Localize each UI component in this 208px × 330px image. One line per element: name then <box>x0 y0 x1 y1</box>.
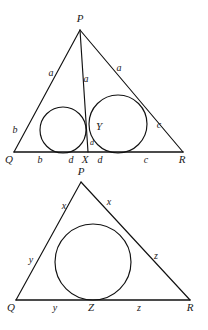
upper-vertex-label-P: P <box>76 12 84 24</box>
lower-segment-label-x-left: x <box>61 200 67 211</box>
upper-segment-label-a-middle: a <box>84 73 89 84</box>
upper-base-label-c: c <box>144 154 149 165</box>
upper-panel: P Q R X Y a a a b c b d d c d <box>5 12 186 165</box>
lower-segment-label-y-side: y <box>28 254 34 265</box>
lower-vertex-label-P: P <box>77 165 85 177</box>
upper-vertex-label-Q: Q <box>5 153 13 165</box>
upper-segment-label-b-side: b <box>13 124 18 135</box>
lower-vertex-label-Q: Q <box>7 301 15 313</box>
lower-incircle <box>55 224 131 300</box>
lower-base-label-z: z <box>136 302 141 313</box>
lower-side-PQ <box>16 182 81 300</box>
upper-cevian-PX <box>80 30 88 152</box>
upper-base-label-d-left: d <box>69 154 75 165</box>
upper-segment-label-c-side: c <box>157 119 162 130</box>
lower-base-label-y: y <box>52 302 58 313</box>
lower-vertex-label-R: R <box>186 301 194 313</box>
lower-segment-label-x-right: x <box>106 196 112 207</box>
lower-side-PR <box>81 182 190 300</box>
upper-left-incircle <box>40 107 86 153</box>
lower-point-label-Z: Z <box>88 301 95 313</box>
upper-segment-label-a-right: a <box>117 62 122 73</box>
lower-panel: P Q R Z x x y z y z <box>7 165 194 313</box>
upper-point-label-Y: Y <box>96 120 104 132</box>
upper-base-label-b: b <box>38 154 43 165</box>
upper-point-label-X: X <box>81 153 90 165</box>
upper-side-PQ <box>14 30 80 152</box>
geometry-figure: P Q R X Y a a a b c b d d c d P Q R Z <box>0 0 208 330</box>
upper-base-label-d-right: d <box>98 154 104 165</box>
upper-inner-label-d: d <box>90 138 95 147</box>
figure-canvas: P Q R X Y a a a b c b d d c d P Q R Z <box>0 0 208 330</box>
upper-segment-label-a-left: a <box>49 67 54 78</box>
upper-vertex-label-R: R <box>178 153 186 165</box>
upper-side-PR <box>80 30 183 152</box>
lower-segment-label-z-side: z <box>153 250 158 261</box>
